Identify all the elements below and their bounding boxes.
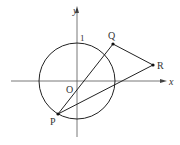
- point-p: [56, 112, 59, 115]
- point-r: [151, 63, 154, 66]
- y-axis-label: y: [72, 5, 78, 16]
- x-axis-label: x: [168, 76, 174, 87]
- point-q-label: Q: [108, 30, 116, 41]
- point-q: [111, 42, 114, 45]
- geometry-diagram: y x 1 O P Q R: [0, 0, 180, 145]
- x-axis-arrow-icon: [160, 79, 167, 83]
- segment-qr: [113, 44, 153, 65]
- unit-label: 1: [80, 33, 85, 43]
- point-p-label: P: [50, 116, 56, 127]
- origin-label: O: [66, 84, 73, 95]
- point-r-label: R: [157, 60, 164, 71]
- segment-pq: [58, 44, 113, 114]
